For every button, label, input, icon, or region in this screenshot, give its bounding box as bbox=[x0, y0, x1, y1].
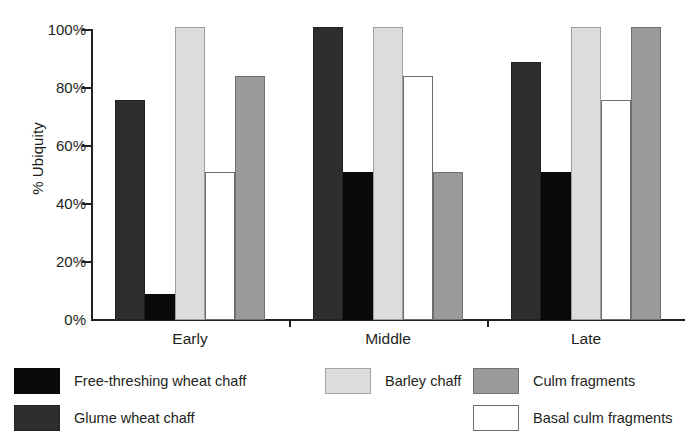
bar bbox=[205, 172, 235, 320]
y-axis-tick-labels: 100%80%60%40%20%0% bbox=[24, 0, 86, 360]
legend-swatch bbox=[325, 368, 371, 394]
legend-label: Glume wheat chaff bbox=[74, 410, 195, 426]
bar bbox=[145, 294, 175, 320]
legend-swatch bbox=[14, 368, 60, 394]
bar bbox=[511, 62, 541, 320]
legend-swatch bbox=[473, 368, 519, 394]
bar bbox=[403, 76, 433, 320]
legend-item: Barley chaff bbox=[325, 368, 461, 394]
bar bbox=[631, 27, 661, 320]
bar bbox=[601, 100, 631, 320]
x-axis-group-label: Middle bbox=[365, 330, 411, 348]
plot-area: % Ubiquity 100%80%60%40%20%0% EarlyMiddl… bbox=[0, 0, 692, 360]
legend-label: Culm fragments bbox=[533, 373, 635, 389]
legend-swatch bbox=[473, 405, 519, 431]
legend-item: Glume wheat chaff bbox=[14, 405, 195, 431]
chart-legend: Free-threshing wheat chaffGlume wheat ch… bbox=[0, 360, 692, 447]
bar bbox=[373, 27, 403, 320]
legend-swatch bbox=[14, 405, 60, 431]
x-axis-group-labels: EarlyMiddleLate bbox=[91, 330, 685, 358]
y-axis-tick-label: 100% bbox=[24, 22, 86, 37]
bar bbox=[541, 172, 571, 320]
bar bbox=[235, 76, 265, 320]
x-axis-group-label: Late bbox=[571, 330, 601, 348]
legend-item: Basal culm fragments bbox=[473, 405, 672, 431]
y-axis-tick-label: 0% bbox=[24, 312, 86, 327]
legend-item: Free-threshing wheat chaff bbox=[14, 368, 246, 394]
y-axis-tick-label: 40% bbox=[24, 196, 86, 211]
legend-item: Culm fragments bbox=[473, 368, 635, 394]
legend-label: Basal culm fragments bbox=[533, 410, 672, 426]
legend-label: Free-threshing wheat chaff bbox=[74, 373, 246, 389]
bars-layer bbox=[91, 0, 685, 321]
bar bbox=[343, 172, 373, 320]
y-axis-tick-label: 80% bbox=[24, 80, 86, 95]
x-axis-group-label: Early bbox=[172, 330, 207, 348]
bar bbox=[115, 100, 145, 320]
bar bbox=[175, 27, 205, 320]
bar-chart: % Ubiquity 100%80%60%40%20%0% EarlyMiddl… bbox=[0, 0, 692, 447]
y-axis-tick-label: 20% bbox=[24, 254, 86, 269]
bar bbox=[433, 172, 463, 320]
bar bbox=[313, 27, 343, 320]
legend-label: Barley chaff bbox=[385, 373, 461, 389]
y-axis-tick-label: 60% bbox=[24, 138, 86, 153]
bar bbox=[571, 27, 601, 320]
